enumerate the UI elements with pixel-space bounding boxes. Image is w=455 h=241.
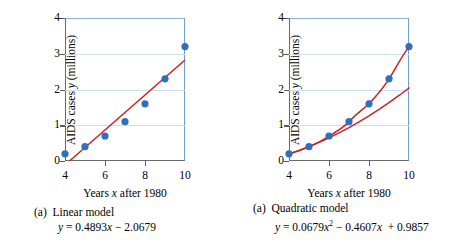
xlabel-10: 10 (173, 170, 197, 182)
panel-quadratic-model: 4 3 2 1 0 4 6 8 10 (227, 0, 455, 241)
data-point (181, 43, 188, 50)
xtick-6 (105, 161, 106, 166)
xlabel-4: 4 (277, 170, 301, 182)
equation-tail: + 0.9857 (388, 221, 429, 233)
x-axis-title-pre: Years (83, 187, 112, 199)
y-axis-title-quadratic: AIDS cases y (millions) (289, 34, 301, 144)
data-point (285, 150, 292, 157)
y-axis-title-var: y (289, 83, 301, 88)
data-point (405, 43, 412, 50)
ytick-0 (284, 161, 289, 162)
data-point (305, 143, 312, 150)
figure-two-panel-regression: 4 3 2 1 0 4 6 8 10 (0, 0, 455, 241)
plot-area-quadratic: 4 3 2 1 0 4 6 8 10 (289, 18, 409, 161)
y-axis-title-post: (millions) (65, 34, 77, 82)
xlabel-8: 8 (133, 170, 157, 182)
xlabel-6: 6 (317, 170, 341, 182)
y-axis-title-var: y (65, 83, 77, 88)
xlabel-4: 4 (53, 170, 77, 182)
data-point (61, 150, 68, 157)
data-points-linear (61, 43, 188, 157)
xtick-6 (329, 161, 330, 166)
y-axis-title-pre: AIDS cases (289, 88, 301, 145)
ylabel-0: 0 (270, 155, 284, 167)
equation-x: x (107, 221, 112, 233)
caption-line-equation: y = 0.4893x − 2.0679 (0, 220, 227, 235)
xlabel-6: 6 (93, 170, 117, 182)
plot-svg-linear (65, 18, 185, 161)
equation-y: y (58, 221, 63, 233)
ylabel-1: 1 (46, 120, 60, 132)
data-point (81, 143, 88, 150)
xlabel-10: 10 (397, 170, 421, 182)
equation-body: = 0.0679 (283, 221, 324, 233)
equation-body: = 0.4893 (66, 221, 107, 233)
data-point (345, 118, 352, 125)
ytick-0 (60, 161, 65, 162)
equation-x2: x (377, 221, 382, 233)
caption-line-title: (a) Linear model (0, 205, 227, 220)
y-axis-title-pre: AIDS cases (65, 88, 77, 145)
data-point (161, 75, 168, 82)
x-axis-title-pre: Years (307, 187, 336, 199)
x-axis-title-linear: Years x after 1980 (65, 187, 185, 199)
data-point (325, 132, 332, 139)
ylabel-3: 3 (270, 48, 284, 60)
data-point (141, 100, 148, 107)
caption-line-equation: y = 0.0679x2 − 0.4607x + 0.9857 (227, 216, 455, 235)
ylabel-2: 2 (270, 84, 284, 96)
ylabel-4: 4 (270, 12, 284, 24)
equation-mid: − 0.4607 (336, 221, 377, 233)
plot-area-linear: 4 3 2 1 0 4 6 8 10 (65, 18, 185, 161)
y-axis-title-linear: AIDS cases y (millions) (65, 34, 77, 144)
y-axis-title-post: (millions) (289, 34, 301, 82)
xtick-8 (369, 161, 370, 166)
plot-svg-quadratic (289, 18, 409, 161)
data-point (121, 118, 128, 125)
caption-label: (a) (34, 206, 47, 218)
xlabel-8: 8 (357, 170, 381, 182)
data-point (101, 132, 108, 139)
panel-linear-model: 4 3 2 1 0 4 6 8 10 (0, 0, 227, 241)
data-point (365, 100, 372, 107)
ylabel-2: 2 (46, 84, 60, 96)
caption-model-name: Linear model (53, 206, 115, 218)
ylabel-3: 3 (46, 48, 60, 60)
fit-curve-quadratic (289, 47, 409, 154)
caption-model-name: Quadratic model (272, 202, 349, 214)
ylabel-4: 4 (46, 12, 60, 24)
equation-tail: − 2.0679 (115, 221, 156, 233)
x-axis-title-quadratic: Years x after 1980 (289, 187, 409, 199)
equation-y: y (275, 221, 280, 233)
x-axis-title-post: after 1980 (117, 187, 167, 199)
equation-exponent: 2 (329, 219, 333, 228)
data-point (385, 75, 392, 82)
caption-quadratic: (a) Quadratic model y = 0.0679x2 − 0.460… (227, 201, 455, 235)
xtick-8 (145, 161, 146, 166)
caption-linear: (a) Linear model y = 0.4893x − 2.0679 (0, 205, 227, 235)
caption-line-title: (a) Quadratic model (227, 201, 455, 216)
ylabel-0: 0 (46, 155, 60, 167)
ylabel-1: 1 (270, 120, 284, 132)
caption-label: (a) (253, 202, 266, 214)
x-axis-title-post: after 1980 (341, 187, 391, 199)
